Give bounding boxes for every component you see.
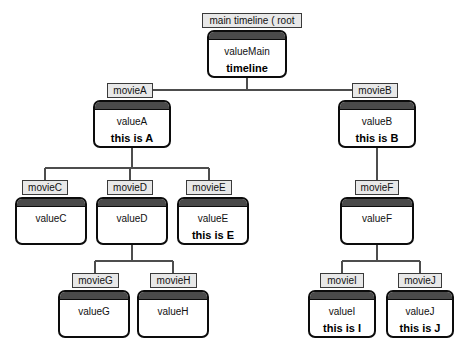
node-body: valueD <box>98 207 166 228</box>
node-movieA[interactable]: valueA this is A <box>93 100 171 148</box>
node-chip-movieB[interactable]: movieB <box>352 83 398 98</box>
node-root[interactable]: valueMain timeline <box>207 30 287 78</box>
node-chip-movieE[interactable]: movieE <box>186 180 232 195</box>
node-chip-root[interactable]: main timeline ( root <box>202 13 302 28</box>
node-body: valueMain timeline <box>209 40 285 76</box>
node-movieH[interactable]: valueH <box>137 290 209 338</box>
node-header-bar <box>340 102 414 110</box>
node-value: valueD <box>116 212 147 225</box>
node-body: valueJ this is J <box>388 300 452 336</box>
node-subtitle: this is J <box>400 321 441 336</box>
node-chip-movieF[interactable]: movieF <box>355 180 399 195</box>
node-subtitle: this is B <box>356 131 399 146</box>
node-header-bar <box>95 102 169 110</box>
node-header-bar <box>139 292 207 300</box>
node-value: valueMain <box>224 45 270 58</box>
node-header-bar <box>310 292 374 300</box>
node-value: valueI <box>329 305 356 318</box>
node-movieJ[interactable]: valueJ this is J <box>386 290 454 338</box>
node-body: valueA this is A <box>95 110 169 146</box>
diagram-canvas: main timeline ( root movieA movieB movie… <box>0 0 470 359</box>
node-chip-movieA[interactable]: movieA <box>107 83 153 98</box>
node-movieD[interactable]: valueD <box>96 197 168 245</box>
node-value: valueG <box>78 305 110 318</box>
node-value: valueA <box>117 115 148 128</box>
node-body: valueB this is B <box>340 110 414 146</box>
node-movieE[interactable]: valueE this is E <box>177 197 249 245</box>
node-movieI[interactable]: valueI this is I <box>308 290 376 338</box>
node-chip-movieI[interactable]: movieI <box>320 273 364 288</box>
node-header-bar <box>179 199 247 207</box>
node-body: valueG <box>60 300 128 321</box>
node-body: valueE this is E <box>179 207 247 243</box>
node-subtitle: timeline <box>226 61 268 76</box>
node-chip-movieH[interactable]: movieH <box>150 273 197 288</box>
node-header-bar <box>342 199 412 207</box>
node-body: valueH <box>139 300 207 321</box>
node-subtitle: this is A <box>111 131 153 146</box>
node-value: valueE <box>198 212 229 225</box>
node-movieC[interactable]: valueC <box>15 197 87 245</box>
node-movieG[interactable]: valueG <box>58 290 130 338</box>
node-value: valueB <box>362 115 393 128</box>
node-body: valueC <box>17 207 85 228</box>
node-movieB[interactable]: valueB this is B <box>338 100 416 148</box>
node-subtitle: this is I <box>323 321 361 336</box>
node-chip-movieC[interactable]: movieC <box>22 180 68 195</box>
node-header-bar <box>60 292 128 300</box>
node-value: valueH <box>157 305 188 318</box>
node-subtitle: this is E <box>192 228 234 243</box>
node-body: valueF <box>342 207 412 228</box>
node-value: valueJ <box>406 305 435 318</box>
node-chip-movieD[interactable]: movieD <box>107 180 153 195</box>
node-body: valueI this is I <box>310 300 374 336</box>
node-chip-movieG[interactable]: movieG <box>72 273 119 288</box>
node-header-bar <box>17 199 85 207</box>
node-header-bar <box>209 32 285 40</box>
node-header-bar <box>388 292 452 300</box>
node-movieF[interactable]: valueF <box>340 197 414 245</box>
node-value: valueC <box>35 212 66 225</box>
node-chip-movieJ[interactable]: movieJ <box>398 273 442 288</box>
node-header-bar <box>98 199 166 207</box>
node-value: valueF <box>362 212 392 225</box>
